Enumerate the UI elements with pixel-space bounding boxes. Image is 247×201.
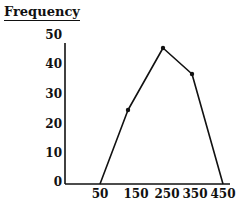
frequency-polygon-line [100, 48, 223, 184]
data-point-350 [190, 72, 194, 76]
data-point-250 [161, 46, 165, 50]
data-point-150 [126, 108, 130, 112]
chart-plot-area [0, 0, 247, 201]
